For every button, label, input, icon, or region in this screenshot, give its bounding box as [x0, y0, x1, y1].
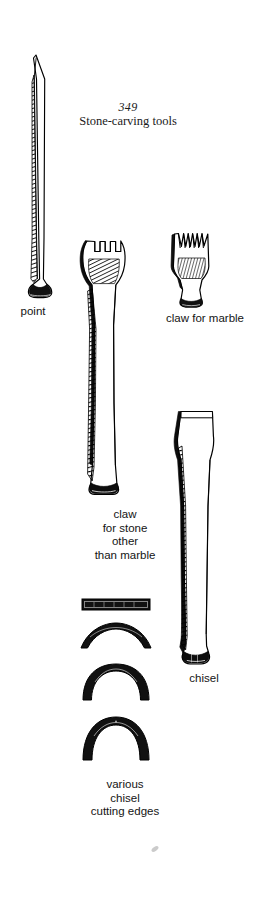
point-label: point [2, 305, 64, 319]
illustration-page: 349 Stone-carving tools poin [0, 0, 255, 899]
point-tool-drawing [10, 48, 80, 308]
figure-caption: Stone-carving tools [68, 114, 188, 129]
deep-gouge-edge-profile [83, 664, 149, 700]
figure-number: 349 [68, 100, 188, 114]
claw-for-marble-drawing [165, 228, 235, 310]
round-gouge-edge-profile [83, 717, 149, 760]
claw-for-marble-label: claw for marble [155, 312, 255, 326]
scan-smudge [151, 845, 160, 853]
claw-for-stone-drawing [72, 233, 142, 505]
figure-title: 349 Stone-carving tools [68, 100, 188, 129]
cutting-edge-profiles [70, 590, 180, 770]
cutting-edges-label: various chisel cutting edges [60, 778, 190, 819]
shallow-curve-edge-profile [81, 623, 151, 648]
flat-edge-profile [82, 599, 150, 610]
